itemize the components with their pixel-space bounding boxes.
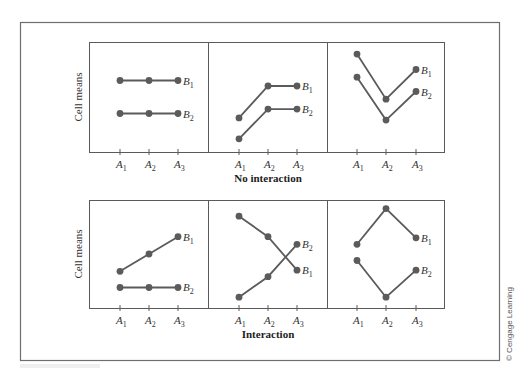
data-point bbox=[175, 77, 182, 84]
data-point bbox=[236, 135, 243, 142]
series-line-b2 bbox=[239, 244, 297, 297]
chart-panel: A1A2A3B1B2 bbox=[115, 75, 194, 174]
series-label-b2: B2 bbox=[183, 281, 194, 296]
data-point bbox=[146, 77, 153, 84]
x-tick-label: A3 bbox=[173, 314, 185, 329]
x-tick-label: A2 bbox=[381, 314, 393, 329]
x-tick-label: A1 bbox=[234, 158, 246, 173]
x-tick-label: A3 bbox=[292, 158, 304, 173]
data-point bbox=[354, 74, 361, 81]
series-label-b1: B1 bbox=[302, 80, 313, 95]
data-point bbox=[383, 205, 390, 212]
data-point bbox=[354, 51, 361, 58]
x-tick-label: A2 bbox=[263, 158, 275, 173]
data-point bbox=[413, 66, 420, 73]
data-point bbox=[413, 88, 420, 95]
data-point bbox=[117, 77, 124, 84]
x-tick-label: A1 bbox=[234, 314, 246, 329]
data-point bbox=[265, 106, 272, 113]
series-label-b2: B2 bbox=[302, 103, 313, 118]
data-point bbox=[146, 110, 153, 117]
data-point bbox=[175, 233, 182, 240]
data-point bbox=[236, 294, 243, 301]
x-tick-label: A1 bbox=[115, 158, 127, 173]
series-line-b1 bbox=[239, 216, 297, 270]
data-point bbox=[354, 241, 361, 248]
series-line-b1 bbox=[357, 54, 416, 99]
x-tick-label: A2 bbox=[381, 158, 393, 173]
x-tick-label: A3 bbox=[411, 158, 423, 173]
data-point bbox=[413, 234, 420, 241]
data-point bbox=[294, 241, 301, 248]
x-tick-label: A3 bbox=[292, 314, 304, 329]
data-point bbox=[236, 115, 243, 122]
data-point bbox=[265, 233, 272, 240]
x-tick-label: A1 bbox=[115, 314, 127, 329]
series-label-b1: B1 bbox=[421, 64, 432, 79]
x-tick-label: A1 bbox=[352, 158, 364, 173]
series-label-b2: B2 bbox=[421, 86, 432, 101]
chart-panel: A1A2A3B1B2 bbox=[352, 51, 432, 173]
data-point bbox=[117, 284, 124, 291]
chart-panel: A1A2A3B1B2 bbox=[234, 213, 313, 329]
series-label-b2: B2 bbox=[183, 108, 194, 123]
series-label-b1: B1 bbox=[183, 75, 194, 90]
series-line-b1 bbox=[357, 209, 416, 245]
data-point bbox=[117, 268, 124, 275]
data-point bbox=[146, 251, 153, 258]
x-tick-label: A2 bbox=[263, 314, 275, 329]
data-point bbox=[146, 284, 153, 291]
data-point bbox=[265, 83, 272, 90]
x-tick-label: A1 bbox=[352, 314, 364, 329]
row-no-interaction: Cell means A1A2A3B1B2 A1A2A3B1B2 A1A2A3B… bbox=[72, 43, 445, 185]
y-axis-label: Cell means bbox=[72, 229, 84, 278]
data-point bbox=[383, 117, 390, 124]
data-point bbox=[175, 110, 182, 117]
x-tick-label: A2 bbox=[144, 314, 156, 329]
data-point bbox=[383, 96, 390, 103]
data-point bbox=[117, 110, 124, 117]
chart-panel: A1A2A3B1B2 bbox=[115, 231, 194, 329]
caption-remnant bbox=[20, 364, 100, 368]
series-label-b1: B1 bbox=[421, 232, 432, 247]
y-axis-label: Cell means bbox=[72, 72, 84, 121]
series-line-b2 bbox=[357, 261, 416, 298]
x-tick-label: A2 bbox=[144, 158, 156, 173]
series-label-b1: B1 bbox=[183, 231, 194, 246]
data-point bbox=[175, 284, 182, 291]
data-point bbox=[354, 257, 361, 264]
row-title-interaction: Interaction bbox=[242, 328, 295, 340]
row-interaction: Cell means A1A2A3B1B2 A1A2A3B1B2 A1A2A3B… bbox=[72, 201, 445, 341]
data-point bbox=[294, 83, 301, 90]
chart-panel: A1A2A3B1B2 bbox=[234, 80, 313, 173]
data-point bbox=[383, 294, 390, 301]
chart-panel: A1A2A3B1B2 bbox=[352, 205, 432, 329]
x-tick-label: A3 bbox=[173, 158, 185, 173]
series-line-b1 bbox=[239, 86, 297, 118]
data-point bbox=[265, 273, 272, 280]
series-line-b2 bbox=[239, 109, 297, 139]
panel-row-frame-top bbox=[90, 43, 445, 153]
interaction-plots-figure: Cell means A1A2A3B1B2 A1A2A3B1B2 A1A2A3B… bbox=[0, 0, 520, 368]
copyright-credit: © Cengage Learning bbox=[505, 287, 514, 361]
data-point bbox=[294, 106, 301, 113]
data-point bbox=[294, 267, 301, 274]
row-title-no-interaction: No interaction bbox=[234, 172, 302, 184]
series-label-b2: B2 bbox=[421, 264, 432, 279]
data-point bbox=[236, 213, 243, 220]
series-label-b2: B2 bbox=[302, 238, 313, 253]
data-point bbox=[413, 267, 420, 274]
series-label-b1: B1 bbox=[302, 264, 313, 279]
x-tick-label: A3 bbox=[411, 314, 423, 329]
